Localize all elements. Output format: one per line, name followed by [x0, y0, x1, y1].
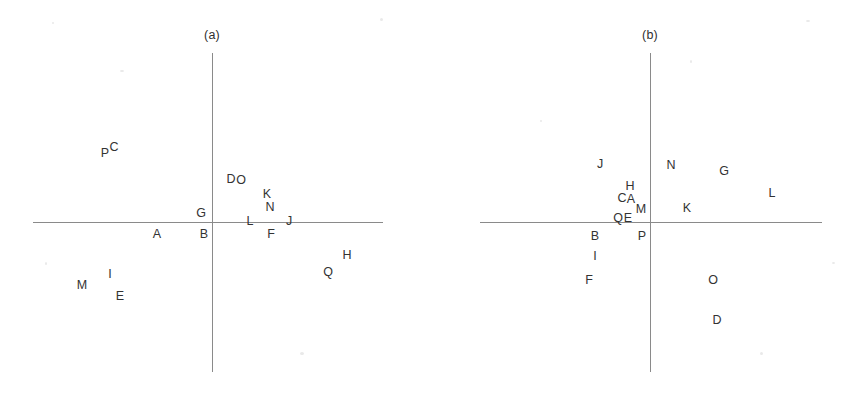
point-label-a-b-10: B — [200, 228, 208, 241]
scatter-panel-b: (b) JNGLHCAMKQEPBIFOD — [424, 0, 847, 394]
point-label-b-p-11: P — [638, 230, 646, 243]
scan-speck — [380, 18, 383, 21]
point-label-b-b-12: B — [591, 230, 599, 243]
point-label-a-d-2: D — [226, 173, 235, 186]
point-label-b-m-7: M — [636, 203, 646, 216]
point-label-b-g-2: G — [719, 165, 729, 178]
point-label-b-d-16: D — [712, 314, 721, 327]
panel-a-y-axis — [212, 53, 213, 372]
point-label-b-f-14: F — [585, 274, 593, 287]
scan-speck — [540, 120, 542, 122]
point-label-a-i-14: I — [108, 268, 111, 281]
scan-speck — [806, 20, 810, 22]
point-label-b-c-5: C — [617, 192, 626, 205]
point-label-b-e-10: E — [624, 212, 632, 225]
panel-b-y-axis — [650, 53, 651, 372]
scatter-panel-a: (a) PCDOKNGLJABFHQIME — [0, 0, 424, 394]
point-label-a-e-16: E — [116, 290, 124, 303]
point-label-a-a-9: A — [153, 228, 161, 241]
point-label-a-h-12: H — [342, 249, 351, 262]
scan-speck — [45, 262, 47, 265]
point-label-a-o-3: O — [236, 174, 246, 187]
panel-a-caption: (a) — [204, 28, 220, 42]
point-label-a-p-0: P — [101, 147, 109, 160]
point-label-b-q-9: Q — [613, 212, 623, 225]
scan-speck — [300, 352, 304, 355]
point-label-b-i-13: I — [593, 250, 596, 263]
point-label-b-a-6: A — [627, 193, 635, 206]
point-label-a-n-5: N — [265, 201, 274, 214]
point-label-b-k-8: K — [683, 202, 691, 215]
point-label-b-l-3: L — [769, 187, 776, 200]
point-label-a-m-15: M — [77, 279, 87, 292]
figure-canvas: (a) PCDOKNGLJABFHQIME (b) JNGLHCAMKQEPBI… — [0, 0, 847, 394]
point-label-a-g-6: G — [196, 207, 206, 220]
panel-b-x-axis — [480, 222, 822, 223]
scan-speck — [760, 352, 763, 355]
scan-speck — [690, 60, 692, 63]
point-label-a-k-4: K — [263, 188, 271, 201]
point-label-a-c-1: C — [109, 141, 118, 154]
scan-speck — [120, 70, 124, 72]
point-label-b-n-1: N — [666, 159, 675, 172]
point-label-b-o-15: O — [708, 274, 718, 287]
panel-a-x-axis — [33, 222, 383, 223]
scan-speck — [832, 262, 835, 264]
point-label-a-j-8: J — [286, 215, 292, 228]
point-label-b-j-0: J — [597, 158, 603, 171]
point-label-a-q-13: Q — [323, 266, 333, 279]
point-label-a-l-7: L — [247, 215, 254, 228]
point-label-a-f-11: F — [267, 228, 275, 241]
point-label-b-h-4: H — [625, 180, 634, 193]
scan-speck — [52, 22, 54, 24]
panel-b-caption: (b) — [642, 28, 658, 42]
